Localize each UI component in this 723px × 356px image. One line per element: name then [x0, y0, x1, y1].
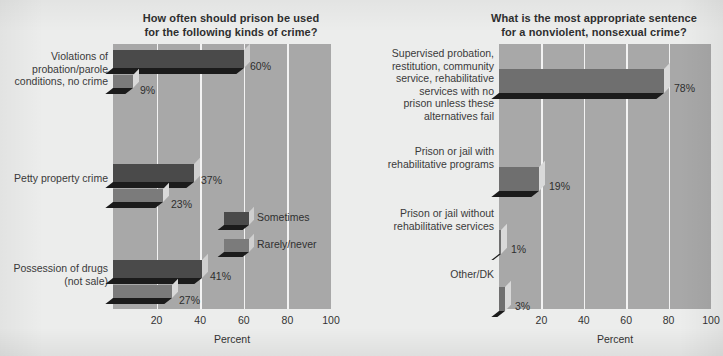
- value-label-petty-rarely: 23%: [171, 198, 192, 210]
- category-label-line: Other/DK: [370, 268, 494, 281]
- bar-petty-sometimes: [113, 164, 194, 182]
- value-label-other-dk: 3%: [515, 300, 530, 312]
- category-label-line: (not sale): [8, 275, 108, 288]
- xtick-100: 100: [316, 314, 346, 326]
- legend-label-sometimes: Sometimes: [257, 211, 310, 223]
- bar-petty-rarely: [113, 189, 163, 202]
- legend-label-rarely: Rarely/never: [257, 238, 317, 250]
- xtick-20: 20: [526, 314, 556, 326]
- xtick-40: 40: [569, 314, 599, 326]
- category-label-other-dk: Other/DK: [370, 268, 494, 281]
- plot-area-left: 60% 9% 37% 23% 41% 27% Sometimes: [113, 44, 331, 309]
- category-label-supervised-probation: Supervised probation, restitution, commu…: [370, 47, 494, 122]
- legend-swatch-sometimes: [224, 212, 249, 225]
- gridline-60: [244, 44, 246, 309]
- category-label-line: Violations of: [8, 50, 108, 63]
- category-label-line: alternatives fail: [370, 110, 494, 123]
- category-label-line: Possession of drugs: [8, 262, 108, 275]
- value-label-petty-sometimes: 37%: [201, 174, 222, 186]
- x-axis-title-left: Percent: [192, 333, 272, 345]
- category-label-line: probation/parole: [8, 63, 108, 76]
- bar-possession-rarely: [113, 285, 172, 298]
- category-label-line: rehabilitative programs: [370, 158, 494, 171]
- value-label-prison-without-rehab: 1%: [511, 243, 526, 255]
- xtick-20: 20: [142, 314, 172, 326]
- plot-area-right: 78% 19% 1% 3%: [499, 44, 711, 309]
- category-label-line: prison unless these: [370, 97, 494, 110]
- chart-panel-left: How often should prison be used for the …: [0, 0, 362, 356]
- category-label-prison-with-rehab: Prison or jail with rehabilitative progr…: [370, 145, 494, 170]
- chart-title-left-line1: How often should prison be used: [106, 12, 356, 26]
- category-label-line: services with no: [370, 85, 494, 98]
- xtick-80: 80: [654, 314, 684, 326]
- chart-title-right-line2: for a nonviolent, nonsexual crime?: [466, 26, 722, 40]
- value-label-violations-sometimes: 60%: [250, 60, 271, 72]
- xtick-60: 60: [611, 314, 641, 326]
- category-label-violations: Violations of probation/parole condition…: [8, 50, 108, 88]
- bar-prison-without-rehab: [499, 230, 501, 254]
- bar-other-dk: [499, 287, 505, 311]
- value-label-possession-rarely: 27%: [179, 294, 200, 306]
- chart-title-left-line2: for the following kinds of crime?: [106, 26, 356, 40]
- category-label-line: service, rehabilitative: [370, 72, 494, 85]
- bar-supervised-probation: [499, 69, 664, 93]
- x-axis-title-right: Percent: [575, 333, 655, 345]
- value-label-violations-rarely: 9%: [140, 84, 155, 96]
- chart-title-left: How often should prison be used for the …: [106, 12, 356, 39]
- category-label-petty-property: Petty property crime: [8, 172, 108, 185]
- category-label-prison-without-rehab: Prison or jail without rehabilitative se…: [370, 207, 494, 232]
- value-label-possession-sometimes: 41%: [210, 270, 231, 282]
- gridline-80: [287, 44, 289, 309]
- value-label-supervised-probation: 78%: [674, 82, 695, 94]
- chart-title-right: What is the most appropriate sentence fo…: [466, 12, 722, 39]
- category-label-line: rehabilitative services: [370, 220, 494, 233]
- xtick-60: 60: [229, 314, 259, 326]
- category-label-line: restitution, community: [370, 60, 494, 73]
- category-label-possession-drugs: Possession of drugs (not sale): [8, 262, 108, 287]
- xtick-100: 100: [696, 314, 723, 326]
- bar-violations-sometimes: [113, 50, 244, 68]
- category-label-line: Prison or jail with: [370, 145, 494, 158]
- bar-possession-sometimes: [113, 260, 202, 278]
- category-label-line: Supervised probation,: [370, 47, 494, 60]
- legend-swatch-rarely: [224, 239, 249, 252]
- category-label-line: conditions, no crime: [8, 75, 108, 88]
- chart-panel-right: What is the most appropriate sentence fo…: [362, 0, 723, 356]
- value-label-prison-with-rehab: 19%: [549, 180, 570, 192]
- xtick-80: 80: [272, 314, 302, 326]
- category-label-line: Prison or jail without: [370, 207, 494, 220]
- chart-title-right-line1: What is the most appropriate sentence: [466, 12, 722, 26]
- xtick-40: 40: [185, 314, 215, 326]
- category-label-line: Petty property crime: [8, 172, 108, 185]
- bar-prison-with-rehab: [499, 167, 539, 191]
- bar-violations-rarely: [113, 75, 133, 88]
